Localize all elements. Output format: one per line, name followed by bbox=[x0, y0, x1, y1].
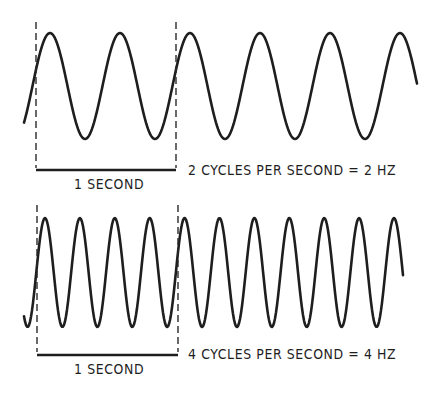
top-panel bbox=[24, 22, 417, 170]
frequency-diagram bbox=[0, 0, 446, 397]
sine-wave-2hz bbox=[24, 33, 417, 139]
sine-wave-4hz bbox=[24, 218, 403, 327]
bottom-interval-label: 1 SECOND bbox=[74, 361, 144, 378]
top-interval-label: 1 SECOND bbox=[74, 176, 144, 193]
bottom-panel bbox=[24, 205, 403, 355]
bottom-frequency-description: 4 CYCLES PER SECOND = 4 HZ bbox=[188, 346, 396, 363]
top-frequency-description: 2 CYCLES PER SECOND = 2 HZ bbox=[188, 162, 396, 179]
